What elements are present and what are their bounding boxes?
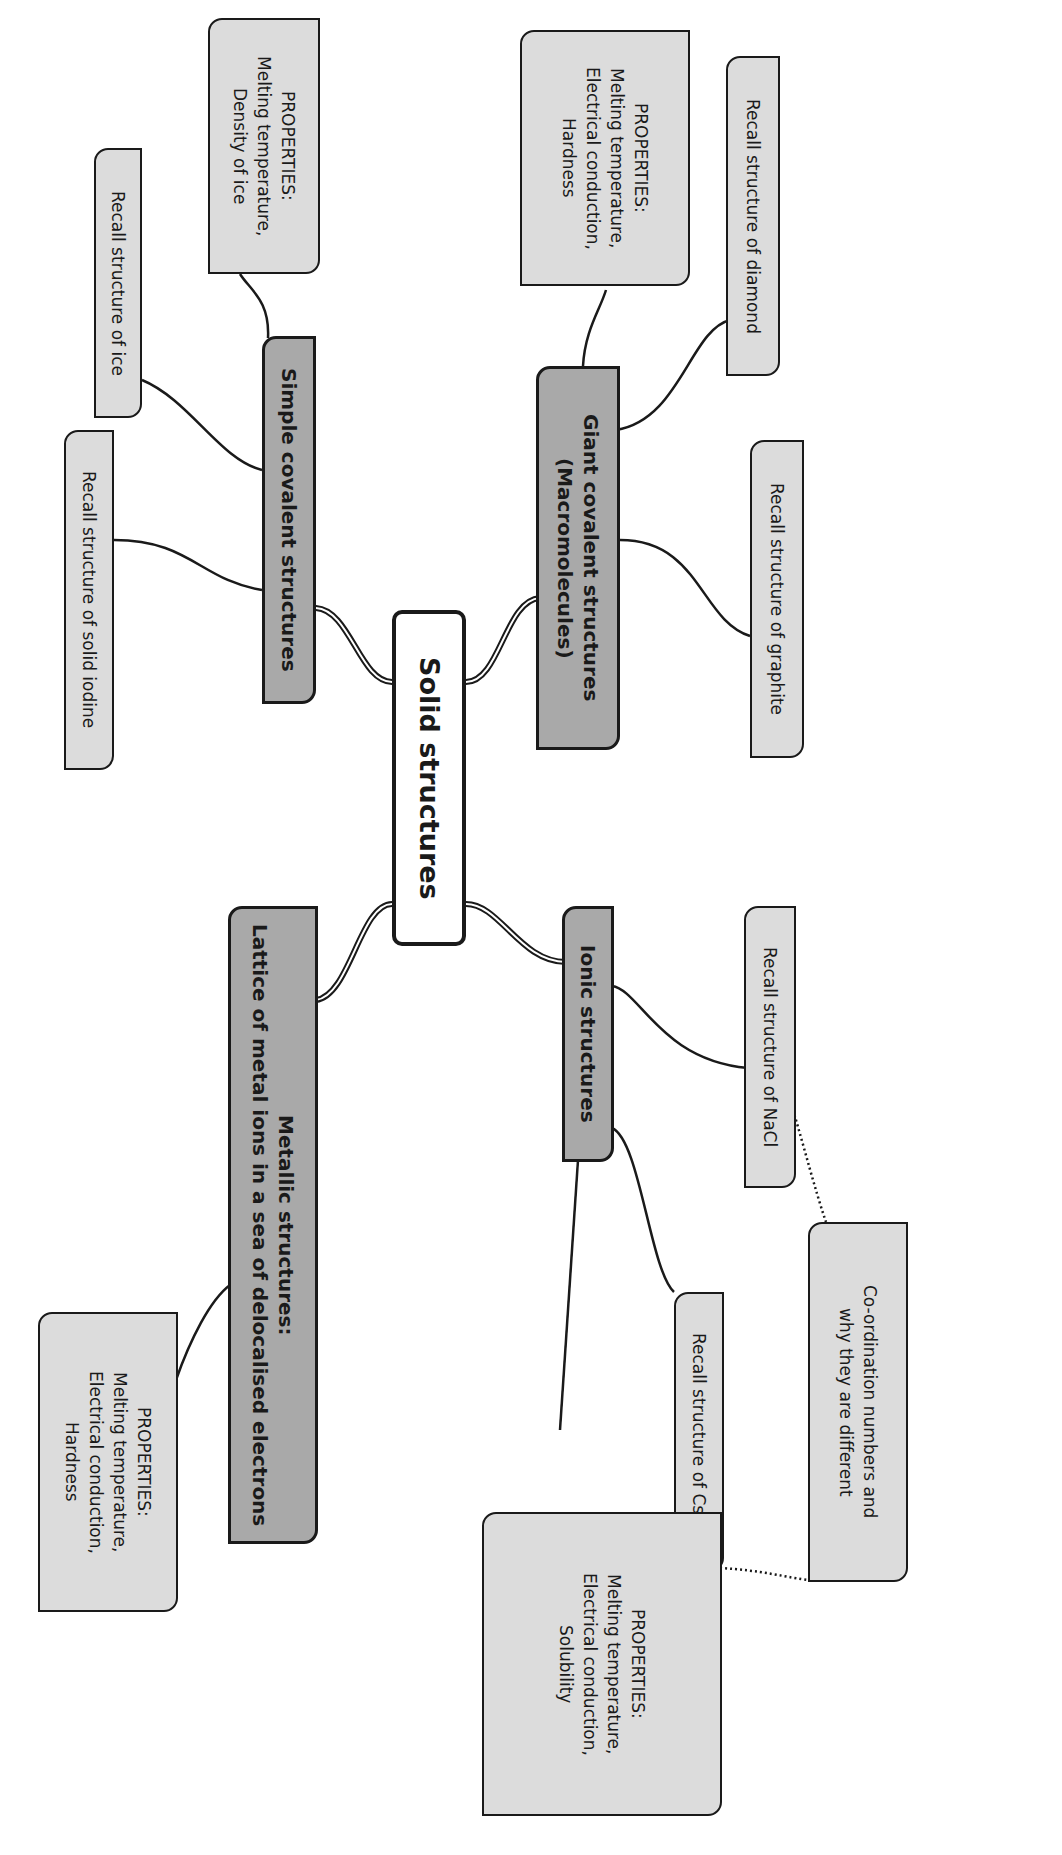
leaf-label: Recall structure of graphite — [765, 483, 789, 715]
branch-label: Simple covalent structures — [276, 368, 302, 672]
leaf-label: Recall structure of diamond — [741, 99, 765, 334]
leaf-label: Co-ordination numbers and why they are d… — [834, 1285, 882, 1518]
leaf-ionic-properties: PROPERTIES: Melting temperature, Electri… — [482, 1512, 722, 1816]
leaf-label: Recall structure of solid iodine — [77, 471, 101, 728]
branch-simple-covalent: Simple covalent structures — [262, 336, 316, 704]
leaf-simple-properties: PROPERTIES: Melting temperature, Density… — [208, 18, 320, 274]
leaf-label: Recall structure of NaCl — [758, 947, 782, 1147]
leaf-recall-ice: Recall structure of ice — [94, 148, 142, 418]
branch-label: Metallic structures: Lattice of metal io… — [247, 924, 299, 1526]
cross-link-coordination: Co-ordination numbers and why they are d… — [808, 1222, 908, 1582]
leaf-recall-iodine: Recall structure of solid iodine — [64, 430, 114, 770]
leaf-label: Recall structure of CsCl — [687, 1333, 711, 1531]
leaf-recall-graphite: Recall structure of graphite — [750, 440, 804, 758]
leaf-label: Recall structure of ice — [106, 191, 130, 376]
leaf-recall-nacl: Recall structure of NaCl — [744, 906, 796, 1188]
branch-giant-covalent: Giant covalent structures (Macromolecule… — [536, 366, 620, 750]
branch-label: Ionic structures — [575, 945, 601, 1123]
leaf-label: PROPERTIES: Melting temperature, Density… — [228, 56, 300, 236]
leaf-label: PROPERTIES: Melting temperature, Electri… — [557, 67, 653, 250]
branch-label: Giant covalent structures (Macromolecule… — [552, 414, 604, 701]
leaf-giant-properties: PROPERTIES: Melting temperature, Electri… — [520, 30, 690, 286]
leaf-label: PROPERTIES: Melting temperature, Electri… — [554, 1573, 650, 1756]
leaf-label: PROPERTIES: Melting temperature, Electri… — [60, 1371, 156, 1554]
leaf-metallic-properties: PROPERTIES: Melting temperature, Electri… — [38, 1312, 178, 1612]
leaf-recall-diamond: Recall structure of diamond — [726, 56, 780, 376]
branch-metallic: Metallic structures: Lattice of metal io… — [228, 906, 318, 1544]
root-node: Solid structures — [392, 610, 466, 946]
root-label: Solid structures — [414, 657, 445, 900]
branch-ionic: Ionic structures — [562, 906, 614, 1162]
